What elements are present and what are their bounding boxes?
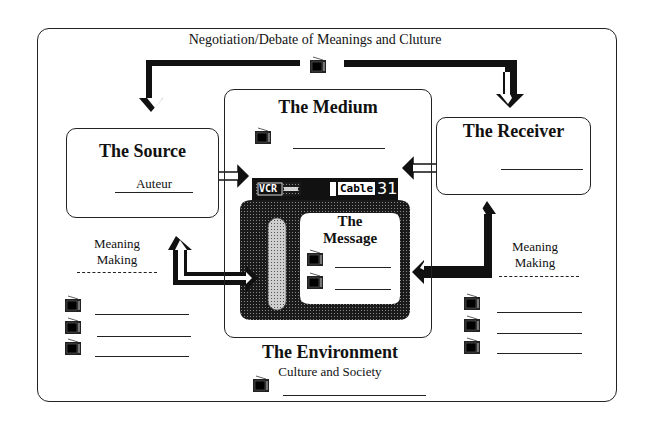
source-title: The Source [67,141,218,162]
source-box: The Source Auteur [66,128,219,218]
message-title: The Message [300,213,400,247]
receiver-box: The Receiver [436,117,591,195]
right-meaning-line2: Making [500,255,570,271]
right-meaning-making: Meaning Making [500,239,570,271]
left-meaning-dashed-line [77,272,157,273]
left-meaning-making: Meaning Making [78,236,156,268]
vcr-label: VCR [259,183,277,194]
tv-icon-top [310,57,326,73]
left-blank-line-2 [97,336,191,337]
message-title-line1: The [300,213,400,230]
left-meaning-line1: Meaning [78,236,156,252]
message-blank-line-1 [335,267,391,268]
medium-title: The Medium [225,97,431,118]
right-meaning-line1: Meaning [500,239,570,255]
receiver-blank-line [501,169,583,170]
left-meaning-line2: Making [78,252,156,268]
environment-title: The Environment [240,342,420,363]
environment-subtitle: Culture and Society [260,364,400,380]
message-blank-line-2 [335,289,391,290]
right-blank-line-2 [497,333,582,334]
receiver-title: The Receiver [437,121,590,142]
left-blank-line-3 [95,356,189,357]
medium-blank-line [293,148,385,149]
cable-label: Cable [338,182,375,195]
environment-blank-line [283,395,426,396]
channel-number: 31 [377,179,397,198]
message-title-line2: Message [300,230,400,247]
source-auteur-label: Auteur [115,176,193,193]
right-meaning-dashed-line [499,276,579,277]
right-blank-line-1 [497,312,582,313]
left-blank-line-1 [95,314,189,315]
right-blank-line-3 [497,353,582,354]
